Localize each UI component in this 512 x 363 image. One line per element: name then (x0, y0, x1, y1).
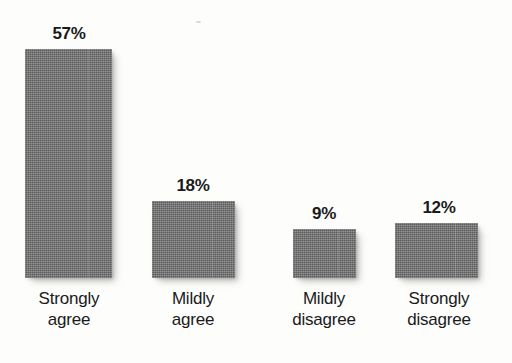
bar-strongly-agree[interactable] (25, 49, 112, 278)
bar-category-label-strongly-agree: Strongly agree (14, 288, 124, 330)
bar-category-label-strongly-disagree: Strongly disagree (384, 288, 494, 330)
bar-category-label-mildly-disagree: Mildly disagree (271, 288, 377, 330)
category-label-line-2: agree (141, 309, 245, 330)
category-label-line-2: disagree (384, 309, 494, 330)
category-label-line-1: Strongly (14, 288, 124, 309)
bar-value-label-strongly-disagree: 12% (384, 198, 494, 218)
category-label-line-2: disagree (271, 309, 377, 330)
bar-value-label-mildly-disagree: 9% (271, 204, 377, 224)
bar-mildly-agree[interactable] (152, 201, 235, 278)
category-label-line-1: Strongly (384, 288, 494, 309)
bar-group-strongly-disagree: 12% Strongly disagree (384, 0, 494, 363)
category-label-line-1: Mildly (141, 288, 245, 309)
bar-chart: 57% Strongly agree 18% Mildly agree 9% M… (0, 0, 512, 363)
bar-group-mildly-disagree: 9% Mildly disagree (271, 0, 377, 363)
plot-area: 57% Strongly agree 18% Mildly agree 9% M… (0, 0, 512, 363)
bar-group-mildly-agree: 18% Mildly agree (141, 0, 245, 363)
category-label-line-2: agree (14, 309, 124, 330)
bar-value-label-strongly-agree: 57% (14, 24, 124, 44)
bar-strongly-disagree[interactable] (395, 223, 478, 278)
bar-category-label-mildly-agree: Mildly agree (141, 288, 245, 330)
bar-value-label-mildly-agree: 18% (141, 176, 245, 196)
bar-group-strongly-agree: 57% Strongly agree (14, 0, 124, 363)
bar-mildly-disagree[interactable] (293, 229, 356, 278)
category-label-line-1: Mildly (271, 288, 377, 309)
